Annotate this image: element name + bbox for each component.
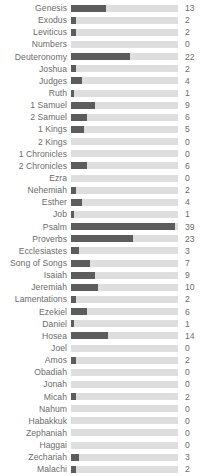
bar-track: [71, 17, 178, 24]
bar-fill: [71, 284, 98, 291]
bar-label: Leviticus: [0, 26, 71, 38]
bar-fill: [71, 65, 76, 72]
chart-row: Jonah0: [0, 378, 205, 390]
bar-label: Ezra: [0, 172, 71, 184]
bar-track: [71, 272, 178, 279]
bar-track: [71, 65, 178, 72]
bar-fill: [71, 223, 175, 230]
bar-label: Habakkuk: [0, 415, 71, 427]
bar-fill: [71, 466, 76, 473]
bar-value: 1: [178, 208, 205, 220]
chart-row: Joshua2: [0, 63, 205, 75]
bar-fill: [71, 296, 76, 303]
bar-track: [71, 320, 178, 327]
bar-value: 14: [178, 330, 205, 342]
bar-track: [71, 235, 178, 242]
bar-value: 6: [178, 111, 205, 123]
bar-track: [71, 247, 178, 254]
chart-row: 1 Samuel9: [0, 99, 205, 111]
bar-value: 23: [178, 233, 205, 245]
chart-row: Psalm39: [0, 221, 205, 233]
bar-value: 3: [178, 451, 205, 463]
bar-label: Judges: [0, 75, 71, 87]
chart-row: Joel0: [0, 342, 205, 354]
bar-value: 39: [178, 221, 205, 233]
bar-track: [71, 405, 178, 412]
bar-label: Numbers: [0, 38, 71, 50]
bar-fill: [71, 199, 82, 206]
chart-row: Proverbs23: [0, 233, 205, 245]
bar-value: 2: [178, 391, 205, 403]
bar-value: 6: [178, 160, 205, 172]
chart-row: Zephaniah0: [0, 427, 205, 439]
bar-value: 0: [178, 172, 205, 184]
bar-value: 0: [178, 148, 205, 160]
bar-label: Obadiah: [0, 366, 71, 378]
bar-value: 2: [178, 463, 205, 475]
bar-track: [71, 126, 178, 133]
chart-row: 2 Chronicles6: [0, 160, 205, 172]
bar-track: [71, 53, 178, 60]
bar-label: 1 Kings: [0, 123, 71, 135]
chart-row: 2 Kings0: [0, 136, 205, 148]
bar-track: [71, 90, 178, 97]
bar-label: Isaiah: [0, 269, 71, 281]
chart-row: Deuteronomy22: [0, 51, 205, 63]
bar-track: [71, 5, 178, 12]
bar-fill: [71, 162, 87, 169]
bar-fill: [71, 29, 76, 36]
bar-track: [71, 260, 178, 267]
bar-label: Ruth: [0, 87, 71, 99]
bar-track: [71, 466, 178, 473]
bar-track: [71, 369, 178, 376]
bar-label: Exodus: [0, 14, 71, 26]
chart-row: Haggai0: [0, 439, 205, 451]
bar-track: [71, 381, 178, 388]
bar-label: 2 Samuel: [0, 111, 71, 123]
bar-track: [71, 393, 178, 400]
chart-row: Esther4: [0, 196, 205, 208]
bar-label: Nahum: [0, 403, 71, 415]
chart-row: Isaiah9: [0, 269, 205, 281]
bar-track: [71, 138, 178, 145]
bar-label: 1 Samuel: [0, 99, 71, 111]
bar-label: Song of Songs: [0, 257, 71, 269]
bar-track: [71, 442, 178, 449]
bar-label: Esther: [0, 196, 71, 208]
bar-value: 10: [178, 281, 205, 293]
chart-row: Obadiah0: [0, 366, 205, 378]
chart-row: Habakkuk0: [0, 415, 205, 427]
bar-value: 0: [178, 342, 205, 354]
chart-row: Leviticus2: [0, 26, 205, 38]
chart-row: Zechariah3: [0, 451, 205, 463]
bar-fill: [71, 53, 130, 60]
chart-row: Song of Songs7: [0, 257, 205, 269]
bar-value: 0: [178, 415, 205, 427]
bar-fill: [71, 235, 133, 242]
bar-value: 9: [178, 99, 205, 111]
bar-track: [71, 357, 178, 364]
bar-track: [71, 417, 178, 424]
bar-track: [71, 223, 178, 230]
bar-track: [71, 77, 178, 84]
bar-label: Lamentations: [0, 293, 71, 305]
bar-fill: [71, 102, 95, 109]
bar-fill: [71, 308, 87, 315]
bar-label: Jonah: [0, 378, 71, 390]
bar-track: [71, 199, 178, 206]
bar-label: Hosea: [0, 330, 71, 342]
bar-label: Daniel: [0, 318, 71, 330]
bar-track: [71, 29, 178, 36]
chart-row: Daniel1: [0, 318, 205, 330]
bar-track: [71, 454, 178, 461]
chart-row: Hosea14: [0, 330, 205, 342]
bar-value: 9: [178, 269, 205, 281]
bar-label: Joel: [0, 342, 71, 354]
bar-value: 2: [178, 293, 205, 305]
bar-label: 1 Chronicles: [0, 148, 71, 160]
bar-label: 2 Kings: [0, 136, 71, 148]
bar-label: Joshua: [0, 63, 71, 75]
bar-fill: [71, 357, 76, 364]
bar-value: 0: [178, 439, 205, 451]
bar-label: Job: [0, 208, 71, 220]
